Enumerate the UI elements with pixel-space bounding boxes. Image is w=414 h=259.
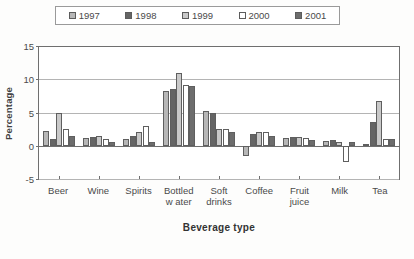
bar[interactable]	[343, 146, 349, 163]
x-axis-category-label: Coffee	[239, 185, 279, 207]
bar[interactable]	[336, 142, 342, 145]
bar-groups	[39, 46, 399, 179]
bar[interactable]	[69, 136, 75, 146]
legend-item-label: 1997	[79, 11, 100, 21]
bar-group	[39, 46, 79, 179]
bar[interactable]	[303, 138, 309, 146]
x-axis-category-label: Spirits	[118, 185, 158, 207]
x-axis-title: Beverage type	[38, 222, 400, 233]
bar[interactable]	[183, 85, 189, 146]
x-axis-tick-mark	[179, 176, 180, 179]
legend-item-label: 1998	[135, 11, 156, 21]
y-axis-tick-label: 0	[29, 140, 34, 151]
y-axis-tick-label: 10	[23, 74, 34, 85]
legend-item-1997[interactable]: 1997	[69, 11, 100, 21]
bar[interactable]	[223, 129, 229, 146]
bar[interactable]	[229, 132, 235, 145]
chart-legend: 19971998199920002001	[55, 6, 340, 25]
bar[interactable]	[103, 139, 109, 146]
bar[interactable]	[269, 136, 275, 146]
bar[interactable]	[56, 113, 62, 146]
y-axis-tick-label: 15	[23, 41, 34, 52]
bar[interactable]	[389, 139, 395, 146]
bar[interactable]	[330, 140, 336, 145]
bar-group	[279, 46, 319, 179]
legend-item-2001[interactable]: 2001	[295, 11, 326, 21]
x-axis-category-label: Soft drinks	[199, 185, 239, 207]
bar[interactable]	[149, 142, 155, 145]
legend-item-label: 1999	[192, 11, 213, 21]
bar[interactable]	[170, 89, 176, 146]
bar-chart-figure: 19971998199920002001 Percentage 151050-5…	[0, 0, 414, 259]
x-axis-category-label: Fruit juice	[279, 185, 319, 207]
bar-group	[199, 46, 239, 179]
bar[interactable]	[43, 131, 49, 146]
bar-group	[159, 46, 199, 179]
bar[interactable]	[323, 141, 329, 146]
bar-group	[319, 46, 359, 179]
x-axis-category-label: Milk	[320, 185, 360, 207]
bar[interactable]	[189, 86, 195, 146]
bar-group	[79, 46, 119, 179]
y-axis-tick-label: -5	[26, 174, 34, 185]
x-axis-category-label: Tea	[360, 185, 400, 207]
x-axis-tick-mark	[259, 176, 260, 179]
bar[interactable]	[90, 137, 96, 146]
legend-swatch-icon	[239, 12, 246, 19]
bar[interactable]	[370, 122, 376, 145]
legend-item-2000[interactable]: 2000	[239, 11, 270, 21]
bar[interactable]	[136, 132, 142, 145]
bar-group	[239, 46, 279, 179]
legend-item-1998[interactable]: 1998	[125, 11, 156, 21]
x-axis-tick-mark	[379, 176, 380, 179]
x-axis-category-label: Beer	[38, 185, 78, 207]
legend-swatch-icon	[295, 12, 302, 19]
bar[interactable]	[290, 137, 296, 146]
bar[interactable]	[283, 138, 289, 146]
bar[interactable]	[309, 140, 315, 145]
bar[interactable]	[130, 136, 136, 146]
bar[interactable]	[109, 142, 115, 146]
bar[interactable]	[83, 138, 89, 146]
plot-inner: 151050-5	[39, 46, 399, 179]
x-axis-tick-mark	[339, 176, 340, 179]
bar[interactable]	[263, 132, 269, 145]
y-axis-tick-label: 5	[29, 107, 34, 118]
bar[interactable]	[123, 139, 129, 146]
bar[interactable]	[143, 126, 149, 146]
bar[interactable]	[216, 129, 222, 146]
bar[interactable]	[96, 136, 102, 146]
legend-swatch-icon	[182, 12, 189, 19]
legend-swatch-icon	[69, 12, 76, 19]
x-axis-tick-mark	[99, 176, 100, 179]
bar[interactable]	[376, 101, 382, 146]
legend-swatch-icon	[125, 12, 132, 19]
y-axis-title-label: Percentage	[3, 86, 14, 139]
x-axis-tick-mark	[59, 176, 60, 179]
bar[interactable]	[163, 91, 169, 146]
bar[interactable]	[243, 146, 249, 156]
legend-item-label: 2000	[249, 11, 270, 21]
x-axis-category-labels: BeerWineSpiritsBottled w aterSoft drinks…	[38, 185, 400, 207]
bar[interactable]	[363, 144, 369, 146]
y-axis-title: Percentage	[2, 46, 15, 180]
plot-area: 151050-5	[38, 46, 400, 180]
bar[interactable]	[349, 142, 355, 146]
bar[interactable]	[210, 113, 216, 146]
x-axis-tick-mark	[219, 176, 220, 179]
bar[interactable]	[383, 139, 389, 146]
bar[interactable]	[63, 129, 69, 146]
bar-group	[119, 46, 159, 179]
legend-item-1999[interactable]: 1999	[182, 11, 213, 21]
gridline--5: -5	[39, 179, 399, 180]
x-axis-category-label: Wine	[78, 185, 118, 207]
bar[interactable]	[256, 132, 262, 145]
bar[interactable]	[176, 73, 182, 146]
bar[interactable]	[296, 137, 302, 146]
x-axis-tick-mark	[299, 176, 300, 179]
x-axis-category-label: Bottled w ater	[159, 185, 199, 207]
bar[interactable]	[50, 139, 56, 146]
bar[interactable]	[203, 111, 209, 146]
bar[interactable]	[250, 134, 256, 146]
legend-item-label: 2001	[305, 11, 326, 21]
